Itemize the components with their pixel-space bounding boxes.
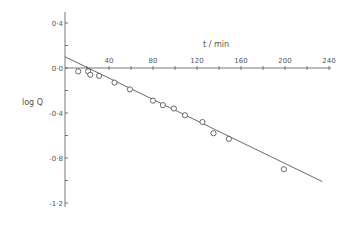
fit-line	[65, 57, 322, 182]
data-point	[182, 113, 187, 118]
x-tick-label: 80	[149, 57, 158, 65]
data-point	[281, 167, 286, 172]
data-point	[76, 69, 81, 74]
x-tick-label: 120	[190, 57, 203, 65]
data-point	[171, 106, 176, 111]
data-point	[127, 87, 132, 92]
data-point	[226, 136, 231, 141]
y-tick-label: -0·4	[49, 110, 63, 118]
data-point	[200, 119, 205, 124]
data-point	[88, 72, 93, 77]
fit-line-group	[65, 57, 322, 182]
y-axis-label: log Q	[22, 98, 43, 107]
data-point	[97, 73, 102, 78]
chart: 40801201602002400·40·0-0·4-0·8-1·2 t / m…	[0, 0, 349, 226]
y-tick-label: -0·8	[49, 155, 63, 163]
y-tick-label: -1·2	[49, 200, 63, 208]
x-tick-label: 160	[234, 57, 247, 65]
y-tick-label: 0·4	[52, 20, 64, 28]
axes	[65, 12, 331, 207]
data-point	[160, 103, 165, 108]
data-point	[112, 80, 117, 85]
data-points	[76, 69, 287, 172]
ticks	[65, 23, 329, 203]
y-tick-label: 0·0	[52, 65, 63, 73]
x-tick-label: 200	[278, 57, 291, 65]
x-tick-label: 240	[322, 57, 335, 65]
x-tick-label: 40	[105, 57, 114, 65]
data-point	[150, 98, 155, 103]
x-axis-label: t / min	[203, 40, 229, 49]
data-point	[211, 131, 216, 136]
tick-labels: 40801201602002400·40·0-0·4-0·8-1·2	[49, 20, 335, 208]
